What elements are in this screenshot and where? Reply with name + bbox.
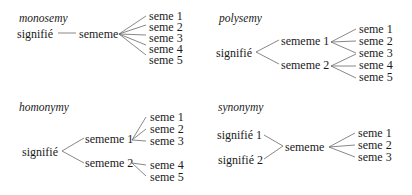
sememe-label: sememe 2 [281, 59, 329, 71]
connector-lines [0, 0, 412, 195]
seme-label: seme 5 [150, 171, 184, 183]
sememe-label: sememe [285, 141, 324, 153]
panel-title: polysemy [219, 12, 262, 24]
seme-label: seme 5 [149, 54, 183, 66]
signifie-label: signifié [17, 28, 53, 40]
panel-title: homonymy [19, 101, 69, 113]
panel-title: monosemy [19, 12, 68, 24]
seme-label: seme 3 [358, 151, 392, 163]
seme-label: seme 3 [150, 135, 184, 147]
signifie-label: signifié [216, 47, 252, 59]
signifie-label: signifié 1 [217, 129, 262, 141]
sememe-label: sememe [79, 28, 118, 40]
signifie-label: signifié 2 [218, 154, 263, 166]
panel-title: synonymy [218, 101, 263, 113]
sememe-label: sememe 2 [85, 157, 133, 169]
signifie-label: signifié [22, 146, 58, 158]
seme-label: seme 5 [359, 71, 393, 83]
sememe-label: sememe 1 [85, 133, 133, 145]
sememe-label: sememe 1 [281, 35, 329, 47]
